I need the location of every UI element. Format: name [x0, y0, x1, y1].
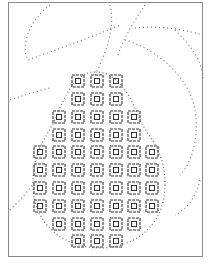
square-outer	[91, 218, 103, 230]
square-outer	[53, 218, 65, 230]
square-inner	[95, 133, 100, 138]
left-curve	[10, 88, 50, 100]
square-outer	[110, 182, 122, 194]
pear-illustration	[0, 0, 213, 265]
square-inner	[150, 204, 155, 209]
square-outer	[91, 200, 103, 212]
square-outer	[53, 200, 65, 212]
square-outer	[91, 235, 103, 247]
square-outer	[34, 200, 46, 212]
square-outer	[110, 75, 122, 87]
square-inner	[57, 150, 62, 155]
right-leaf-top	[135, 27, 203, 35]
square-outer	[72, 182, 84, 194]
square-outer	[110, 129, 122, 141]
square-outer	[53, 146, 65, 158]
square-inner	[114, 204, 119, 209]
left-leaf	[25, 5, 120, 60]
stem	[95, 5, 112, 75]
square-inner	[57, 204, 62, 209]
square-outer	[91, 129, 103, 141]
stem-branch	[118, 5, 145, 55]
square-outer	[72, 200, 84, 212]
square-outer	[91, 75, 103, 87]
square-inner	[57, 222, 62, 227]
square-inner	[114, 150, 119, 155]
square-outer	[53, 129, 65, 141]
square-inner	[114, 97, 119, 102]
square-outer	[72, 218, 84, 230]
square-inner	[150, 168, 155, 173]
square-outer	[128, 182, 140, 194]
square-inner	[57, 115, 62, 120]
square-outer	[72, 146, 84, 158]
square-outer	[128, 111, 140, 123]
square-outer	[110, 111, 122, 123]
square-outer	[128, 218, 140, 230]
square-inner	[57, 133, 62, 138]
square-outer	[146, 164, 158, 176]
square-outer	[110, 200, 122, 212]
leaf-outlines	[10, 5, 203, 215]
square-outer	[91, 182, 103, 194]
square-inner	[114, 115, 119, 120]
square-inner	[132, 150, 137, 155]
square-inner	[132, 186, 137, 191]
square-inner	[76, 150, 81, 155]
square-outer	[72, 235, 84, 247]
right-lower-leaf	[175, 180, 200, 215]
square-inner	[57, 168, 62, 173]
square-inner	[76, 133, 81, 138]
square-outer	[128, 164, 140, 176]
square-outer	[110, 218, 122, 230]
square-inner	[95, 97, 100, 102]
square-inner	[76, 186, 81, 191]
square-inner	[150, 150, 155, 155]
square-outer	[34, 146, 46, 158]
square-outer	[110, 146, 122, 158]
square-inner	[76, 222, 81, 227]
square-inner	[76, 204, 81, 209]
square-inner	[114, 186, 119, 191]
square-outer	[53, 182, 65, 194]
square-outer	[53, 164, 65, 176]
square-inner	[114, 239, 119, 244]
square-inner	[38, 204, 43, 209]
square-outer	[128, 129, 140, 141]
square-inner	[114, 168, 119, 173]
square-inner	[76, 115, 81, 120]
square-inner	[95, 204, 100, 209]
square-inner	[132, 222, 137, 227]
square-inner	[150, 186, 155, 191]
square-inner	[95, 115, 100, 120]
square-inner	[57, 186, 62, 191]
square-outer	[146, 200, 158, 212]
square-inner	[76, 239, 81, 244]
square-outer	[91, 93, 103, 105]
square-outer	[72, 111, 84, 123]
square-inner	[132, 168, 137, 173]
square-outer	[72, 93, 84, 105]
square-inner	[132, 204, 137, 209]
square-inner	[114, 222, 119, 227]
square-inner	[95, 79, 100, 84]
square-inner	[95, 168, 100, 173]
square-outer	[110, 93, 122, 105]
square-outer	[110, 164, 122, 176]
right-leaf-curve	[175, 30, 203, 80]
square-inner	[132, 115, 137, 120]
square-inner	[114, 133, 119, 138]
square-outer	[91, 164, 103, 176]
square-inner	[38, 186, 43, 191]
square-outer	[72, 75, 84, 87]
square-outer	[34, 182, 46, 194]
square-inner	[95, 150, 100, 155]
square-outer	[34, 164, 46, 176]
square-outer	[91, 111, 103, 123]
square-inner	[132, 133, 137, 138]
square-outer	[128, 200, 140, 212]
square-inner	[76, 168, 81, 173]
square-inner	[38, 168, 43, 173]
square-inner	[76, 97, 81, 102]
square-inner	[95, 239, 100, 244]
